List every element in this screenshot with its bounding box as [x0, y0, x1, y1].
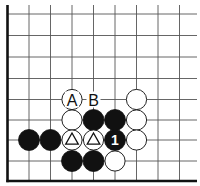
go-board: 1 AB: [0, 0, 200, 186]
white-stone: [126, 110, 146, 130]
black-stone: [19, 130, 40, 151]
white-stone: [126, 89, 146, 109]
stones-layer: 1: [19, 89, 147, 171]
black-stone: [105, 110, 126, 131]
point-label-a: A: [67, 92, 78, 109]
black-stone: [83, 110, 104, 131]
black-stone: 1: [105, 130, 126, 151]
white-stone: [126, 130, 146, 150]
white-stone: [62, 110, 82, 130]
black-stone: [83, 151, 104, 172]
point-label-b: B: [88, 92, 99, 109]
move-number: 1: [111, 132, 119, 148]
white-stone: [62, 130, 82, 150]
point-labels: AB: [65, 92, 101, 109]
white-stone: [83, 130, 103, 150]
black-stone: [40, 130, 61, 151]
black-stone: [62, 151, 83, 172]
white-stone: [105, 151, 125, 171]
